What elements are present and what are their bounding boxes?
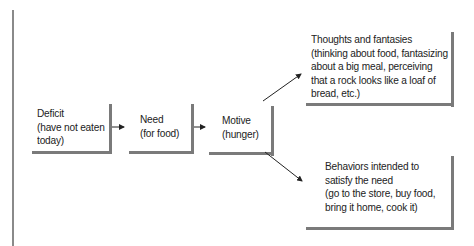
arrow-motive-to-behaviors bbox=[265, 152, 302, 181]
edges bbox=[0, 0, 474, 246]
arrow-motive-to-thoughts bbox=[263, 74, 301, 101]
